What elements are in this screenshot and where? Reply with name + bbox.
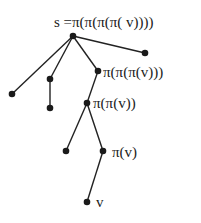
node-left-leaf [9,91,16,98]
node-p3 [95,68,102,75]
edge-root-middle [50,36,73,79]
edges [12,36,145,202]
node-v [84,199,91,206]
label-v: v [96,194,104,210]
tree-diagram: s =π(π(π(π( v)))) π(π(π(v))) π(π(v)) π(v… [0,0,201,223]
label-p3: π(π(π(v))) [103,64,163,81]
edge-root-left-leaf [12,36,73,94]
node-middle [47,76,54,83]
edge-p2-leaf [66,103,87,151]
label-root: s =π(π(π(π( v)))) [54,14,154,31]
node-p2-leaf [63,148,70,155]
label-p1: π(v) [112,144,137,161]
nodes [9,33,149,206]
node-p2 [84,100,91,107]
labels: s =π(π(π(π( v)))) π(π(π(v))) π(π(v)) π(v… [54,14,163,210]
node-right-leaf [142,50,149,57]
node-p1 [100,148,107,155]
label-p2: π(π(v)) [93,95,136,112]
node-middle-leaf [47,105,54,112]
node-root [70,33,77,40]
